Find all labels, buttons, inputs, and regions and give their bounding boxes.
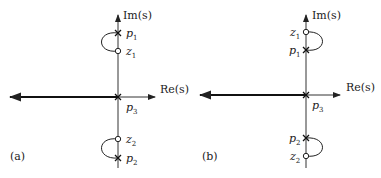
root-locus-diagram: Im(s) Re(s) p1 z1 p3 z2 p2 (a) Im(s) Re(… [0,0,381,178]
z1-label: z1 [289,26,300,41]
zero-z1-icon [115,48,120,53]
panel-b-label: (b) [202,150,218,163]
panel-b: Im(s) Re(s) z1 p1 p3 p2 z2 (b) [200,9,375,168]
re-axis-label: Re(s) [346,81,375,94]
im-axis-label: Im(s) [312,9,341,22]
zero-z1-icon [303,29,308,34]
p2-label: p2 [126,152,138,167]
p2-label: p2 [289,132,301,147]
z1-label: z1 [125,45,136,60]
z2-label: z2 [125,133,136,148]
p1-label: p1 [126,27,138,42]
p1-label: p1 [289,44,301,59]
z2-label: z2 [289,150,300,165]
re-axis-label: Re(s) [160,83,189,96]
zero-z2-icon [115,136,120,141]
p3-label: p3 [312,99,324,114]
p3-label: p3 [126,101,138,116]
panel-a-label: (a) [10,150,25,163]
im-axis-label: Im(s) [123,9,152,22]
zero-z2-icon [303,153,308,158]
panel-a: Im(s) Re(s) p1 z1 p3 z2 p2 (a) [10,9,189,168]
